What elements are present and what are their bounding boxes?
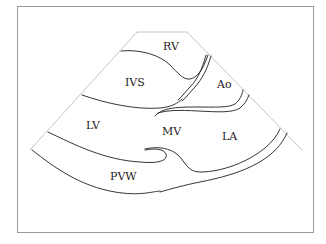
label-mv: MV: [162, 125, 182, 138]
lv-posterior-endocardium: [48, 132, 166, 163]
aortic-posterior-wall-outer: [155, 90, 243, 116]
label-ao: Ao: [216, 78, 232, 91]
label-la: LA: [222, 130, 238, 143]
echo-diagram: RV IVS Ao LV MV LA PVW: [0, 0, 326, 244]
posterior-wall-epicardium: [32, 150, 160, 194]
label-ivs: IVS: [125, 76, 145, 89]
label-lv: LV: [86, 119, 101, 132]
ivs-lower-border: [82, 95, 182, 108]
rv-border: [121, 51, 208, 79]
label-rv: RV: [163, 40, 180, 53]
label-pvw: PVW: [110, 170, 137, 183]
